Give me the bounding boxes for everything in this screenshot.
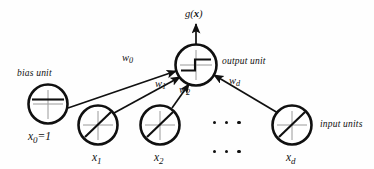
node-input-x1 bbox=[79, 106, 118, 145]
node-output-unit bbox=[176, 45, 217, 86]
weight-sub: d bbox=[236, 79, 240, 88]
ellipsis-dot bbox=[237, 121, 240, 124]
edge-xd-to-output bbox=[214, 75, 278, 113]
node-input-x2 bbox=[141, 106, 180, 145]
ellipsis-row-lower bbox=[213, 150, 241, 153]
ellipsis-dot bbox=[225, 150, 228, 153]
node-label-x2: x2 bbox=[154, 152, 164, 165]
weight-base: w bbox=[229, 75, 236, 86]
node-label-sub: 2 bbox=[159, 156, 163, 166]
ellipsis-dot bbox=[237, 150, 240, 153]
ellipsis-dot bbox=[225, 121, 228, 124]
output-value-label: g(x) bbox=[185, 9, 203, 20]
ellipsis-row-upper bbox=[213, 121, 241, 124]
weight-base: w bbox=[179, 84, 186, 95]
node-label-xd: xd bbox=[286, 152, 296, 165]
node-label-tail: =1 bbox=[38, 130, 52, 142]
node-bias-unit bbox=[29, 85, 68, 124]
node-input-xd bbox=[273, 106, 312, 145]
ellipsis-dot bbox=[213, 150, 216, 153]
output-label-suffix: ) bbox=[199, 8, 203, 19]
node-label-sub: d bbox=[291, 156, 295, 166]
weight-base: w bbox=[155, 78, 162, 89]
weight-base: w bbox=[122, 52, 129, 63]
weight-label-w1: w1 bbox=[155, 79, 166, 91]
weight-sub: 1 bbox=[162, 82, 166, 91]
node-label-x1: x1 bbox=[92, 152, 102, 165]
weight-label-w0: w0 bbox=[122, 53, 133, 65]
weight-label-wd: wd bbox=[229, 76, 240, 88]
node-label-sub: 1 bbox=[97, 156, 101, 166]
neural-network-diagram: g(x) bias unit output unit input units x… bbox=[0, 0, 374, 169]
ellipsis-dot bbox=[213, 121, 216, 124]
output-label-prefix: g( bbox=[185, 8, 194, 19]
output-unit-annotation: output unit bbox=[222, 57, 266, 67]
bias-unit-annotation: bias unit bbox=[17, 69, 52, 79]
weight-sub: 0 bbox=[129, 56, 133, 65]
weight-sub: 2 bbox=[186, 88, 190, 97]
node-label-bias: x0=1 bbox=[28, 131, 51, 144]
weight-label-w2: w2 bbox=[179, 85, 190, 97]
input-units-annotation: input units bbox=[320, 120, 363, 130]
